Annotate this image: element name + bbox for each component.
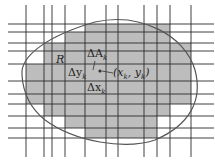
- shaded-rectangle-row: [44, 104, 170, 116]
- shaded-rectangle-row: [65, 32, 170, 43]
- sample-point-marker: [98, 69, 101, 72]
- shaded-rectangle-row: [85, 128, 157, 138]
- shaded-rectangle-row: [44, 51, 191, 64]
- region-label: R: [55, 53, 64, 66]
- shaded-rectangle-row: [26, 81, 191, 94]
- region-partition-diagram: R ΔAk Δyk Δxk (xk, yk): [0, 0, 215, 162]
- shaded-rectangle-row: [44, 43, 191, 51]
- shaded-rectangle-row: [26, 94, 191, 104]
- shaded-rectangle-row: [65, 116, 157, 128]
